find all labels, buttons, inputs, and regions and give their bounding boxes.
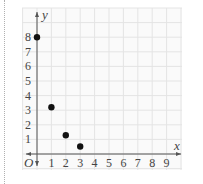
data-point (63, 132, 69, 138)
y-tick-label: 7 (25, 45, 31, 59)
y-tick-label: 5 (25, 74, 31, 88)
y-tick-label: 4 (25, 89, 31, 103)
y-tick-label: 8 (25, 30, 31, 44)
x-tick-label: 9 (164, 156, 170, 170)
data-point (34, 34, 40, 40)
x-tick-label: 8 (149, 156, 155, 170)
x-tick-label: 1 (48, 156, 54, 170)
data-point (48, 104, 54, 110)
scatter-chart: 123456789 12345678 x y O (0, 0, 203, 184)
x-tick-label: 7 (135, 156, 141, 170)
x-tick-label: 2 (63, 156, 69, 170)
x-tick-label: 4 (92, 156, 98, 170)
y-tick-labels: 12345678 (25, 30, 31, 146)
origin-label: O (24, 155, 34, 170)
x-tick-label: 3 (77, 156, 83, 170)
y-axis-label: y (40, 7, 48, 22)
x-axis-label: x (173, 138, 180, 153)
x-tick-labels: 123456789 (48, 156, 169, 170)
x-tick-label: 5 (106, 156, 112, 170)
y-tick-label: 2 (25, 118, 31, 132)
x-tick-label: 6 (120, 156, 126, 170)
y-tick-label: 6 (25, 59, 31, 73)
data-point (77, 143, 83, 149)
plot-panel (22, 8, 182, 170)
y-tick-label: 1 (25, 132, 31, 146)
y-tick-label: 3 (25, 103, 31, 117)
